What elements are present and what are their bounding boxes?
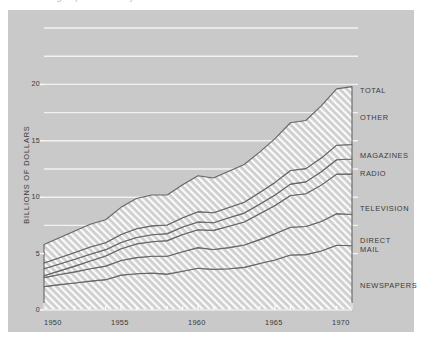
x-tick-label-1965: 1965 (265, 318, 283, 327)
television-label: TELEVISION (360, 205, 409, 214)
y-tick-label-15: 15 (22, 136, 40, 145)
x-tick-label-1970: 1970 (332, 318, 350, 327)
area-chart-svg (8, 10, 414, 332)
newspapers-label: NEWSPAPERS (360, 282, 417, 291)
y-tick-label-5: 5 (22, 249, 40, 258)
chart-panel: BILLIONS OF DOLLARS 05101520 19501955196… (8, 10, 414, 332)
stacked-bands-group (44, 87, 352, 310)
total-label: TOTAL (360, 87, 386, 96)
y-tick-label-0: 0 (22, 305, 40, 314)
x-tick-label-1950: 1950 (44, 318, 62, 327)
figure-root: advertising expenditures by media BILLIO… (0, 0, 422, 342)
y-tick-label-20: 20 (22, 79, 40, 88)
y-tick-label-10: 10 (22, 192, 40, 201)
magazines-label: MAGAZINES (360, 152, 408, 161)
radio-label: RADIO (360, 170, 386, 179)
other-label: OTHER (360, 114, 389, 123)
x-tick-label-1955: 1955 (111, 318, 129, 327)
x-tick-label-1960: 1960 (188, 318, 206, 327)
direct-mail-label-2: MAIL (360, 246, 379, 255)
cropped-caption-text: advertising expenditures by media (14, 0, 314, 4)
